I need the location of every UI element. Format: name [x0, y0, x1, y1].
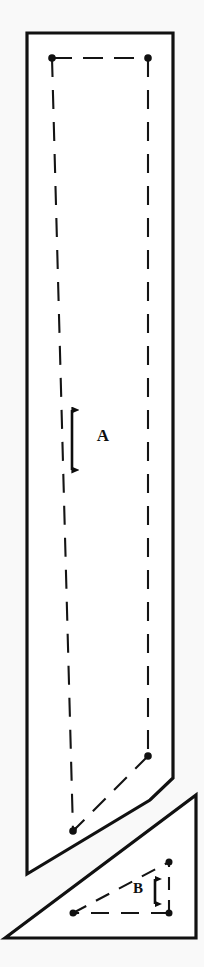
dot-upper-right	[144, 54, 152, 62]
dimension-label-b: B	[133, 880, 143, 896]
dot-tri-apex	[166, 859, 173, 866]
dot-tri-bottom-right	[166, 910, 173, 917]
dot-tri-bottom-left	[70, 910, 77, 917]
geometric-diagram-canvas: A B	[0, 0, 204, 967]
diagram-svg: A B	[0, 0, 204, 967]
upper-body-outline	[27, 33, 173, 874]
dot-mid-right	[144, 752, 152, 760]
dot-upper-left	[48, 54, 56, 62]
dimension-label-a: A	[97, 426, 110, 445]
dot-lower-left	[69, 827, 77, 835]
